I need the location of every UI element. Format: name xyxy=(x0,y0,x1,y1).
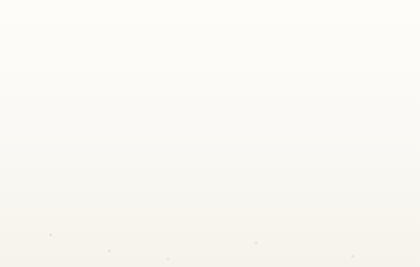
legend-swatch xyxy=(66,140,75,149)
x-tick-label: 2025 xyxy=(318,238,337,248)
y-tick-label: 40 xyxy=(28,139,38,149)
y-tick-label: 70 xyxy=(28,73,38,83)
legend-label: Natural gas liquids xyxy=(79,141,152,150)
x-tick-label: 2010 xyxy=(196,238,215,248)
x-tick-label: 2035 xyxy=(398,238,417,248)
legend-swatch xyxy=(66,183,75,192)
x-tick-label: 1990 xyxy=(34,238,53,248)
y-tick-label: 30 xyxy=(28,161,38,171)
x-tick-label: 2015 xyxy=(237,238,256,248)
x-axis: 1990199520002005201020152020202520302035 xyxy=(34,232,417,248)
chart-legend: Unconventional oilNatural gas liquidsCru… xyxy=(58,121,220,196)
legend-label: Crude oil, fields yet to be discovered xyxy=(79,155,220,164)
y-tick-label: 0 xyxy=(33,227,38,237)
legend-swatch xyxy=(66,154,75,163)
x-axis-title: Year xyxy=(217,249,236,259)
y-axis: 0102030405060708090100 xyxy=(24,7,44,237)
legend-label: Crude oil, fields producing xyxy=(79,183,182,192)
y-tick-label: 60 xyxy=(28,95,38,105)
legend-label: Unconventional oil xyxy=(79,127,151,136)
legend-swatch xyxy=(66,168,75,177)
page-body-text-fragment: converted to proven reserves in several … xyxy=(0,0,420,12)
y-axis-title: Million barrels per day xyxy=(3,75,13,168)
y-tick-label: 20 xyxy=(28,183,38,193)
chart-svg: 0102030405060708090100199019952000200520… xyxy=(0,0,420,267)
y-tick-label: 10 xyxy=(28,205,38,215)
legend-swatch xyxy=(66,126,75,135)
x-tick-label: 1995 xyxy=(75,238,94,248)
stacked-area-chart: 0102030405060708090100199019952000200520… xyxy=(0,0,420,267)
x-tick-label: 2030 xyxy=(358,238,377,248)
legend-label: Crude oil, fields yet to be developed xyxy=(79,169,218,178)
y-tick-label: 80 xyxy=(28,51,38,61)
y-tick-label: 90 xyxy=(28,29,38,39)
x-tick-label: 2020 xyxy=(277,238,296,248)
x-tick-label: 2000 xyxy=(115,238,134,248)
y-tick-label: 50 xyxy=(28,117,38,127)
x-tick-label: 2005 xyxy=(156,238,175,248)
